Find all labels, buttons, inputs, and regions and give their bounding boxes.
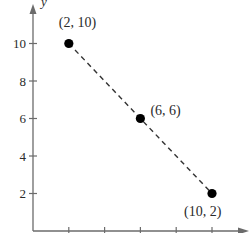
data-points: (2, 10)(6, 6)(10, 2) (59, 15, 222, 220)
y-tick-label: 10 (13, 36, 26, 51)
y-axis-label: y (39, 0, 47, 9)
data-point (136, 114, 145, 123)
x-ticks (69, 227, 212, 233)
x-axis-arrow-icon (238, 228, 249, 234)
point-label: (10, 2) (184, 204, 222, 220)
chart: y 246810 (2, 10)(6, 6)(10, 2) (0, 0, 252, 233)
y-tick-label: 8 (20, 74, 27, 89)
y-tick-label: 4 (20, 149, 27, 164)
y-axis-arrow-icon (30, 4, 37, 14)
point-label: (6, 6) (150, 103, 181, 119)
y-tick-label: 6 (20, 111, 27, 126)
data-point (207, 189, 216, 198)
y-tick-label: 2 (20, 186, 27, 201)
point-label: (2, 10) (59, 15, 97, 31)
data-point (64, 39, 73, 48)
